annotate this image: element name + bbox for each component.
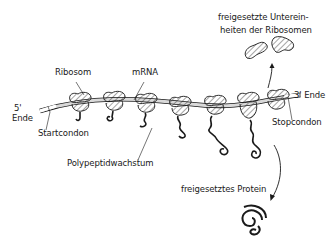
label-ribosome: Ribosom [55,67,91,77]
label-stop-codon: Stopcondon [272,117,322,127]
ribosome-4 [170,96,192,137]
ribosome-1 [70,92,92,120]
label-released-subunits-line2: heiten der Ribosomen [220,25,312,35]
label-five-prime: 5' [14,103,22,113]
label-mrna: mRNA [132,67,158,77]
ribosome-2 [104,91,126,120]
ribosome-3 [136,93,158,126]
label-released-subunits-line1: freigesetzte Unterein- [218,12,309,22]
polyribosome-diagram: freigesetzte Unterein- heiten der Riboso… [0,0,336,240]
label-released-protein: freigesetztes Protein [181,184,266,194]
released-subunits [245,37,293,59]
label-start-codon: Startcondon [38,128,89,138]
release-arrow-up [268,63,275,88]
label-polypeptide-growth: Polypeptidwachstum [67,158,153,168]
label-three-prime-end: 3' Ende [294,90,325,100]
label-five-prime-end: Ende [12,113,33,123]
released-protein [243,206,266,235]
release-arrow-down [270,145,281,201]
